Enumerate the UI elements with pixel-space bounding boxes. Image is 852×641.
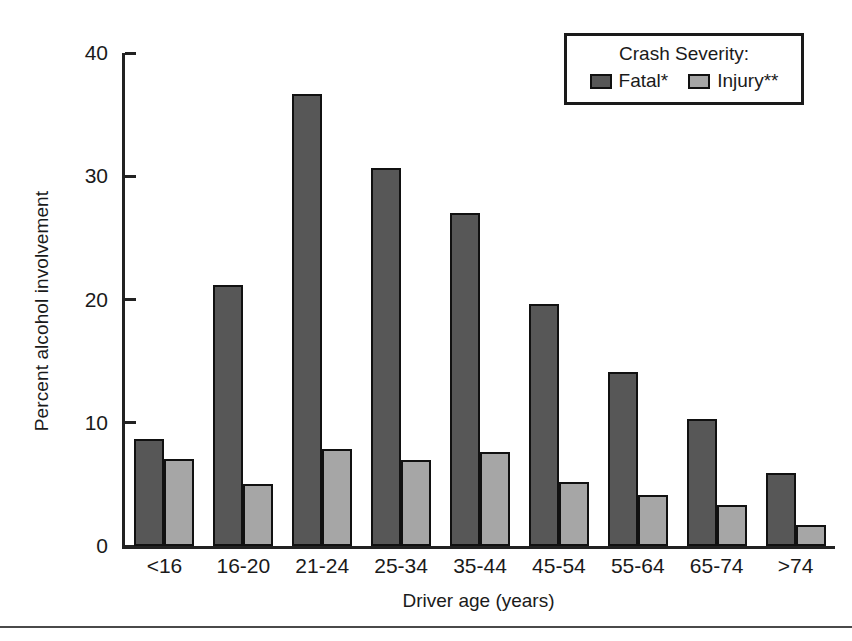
x-axis-tick-label: 25-34	[362, 554, 441, 578]
legend-label: Fatal*	[619, 70, 669, 92]
x-axis-tick-label: >74	[756, 554, 835, 578]
bar-injury[interactable]	[480, 452, 510, 546]
legend-swatch-fatal	[590, 74, 612, 89]
bar-fatal[interactable]	[292, 94, 322, 546]
x-axis-tick-label: 16-20	[204, 554, 283, 578]
x-axis-tick-label: 35-44	[441, 554, 520, 578]
bar-injury[interactable]	[559, 482, 589, 546]
y-axis-tick-label: 10	[85, 411, 108, 435]
x-axis-tick-label: <16	[125, 554, 204, 578]
x-axis-tick-label: 55-64	[598, 554, 677, 578]
bar-group	[283, 53, 362, 546]
bar-group	[598, 53, 677, 546]
bar-group	[677, 53, 756, 546]
bar-group	[125, 53, 204, 546]
bar-fatal[interactable]	[450, 213, 480, 546]
bar-group	[519, 53, 598, 546]
bar-fatal[interactable]	[371, 168, 401, 546]
bar-injury[interactable]	[717, 505, 747, 546]
legend-entries: Fatal*Injury**	[577, 70, 791, 92]
y-axis-title: Percent alcohol involvement	[31, 101, 53, 521]
legend-entry[interactable]: Fatal*	[590, 70, 669, 92]
bar-fatal[interactable]	[766, 473, 796, 546]
bar-injury[interactable]	[638, 495, 668, 546]
bar-injury[interactable]	[401, 460, 431, 546]
x-axis-tick-labels: <1616-2021-2425-3435-4445-5455-6465-74>7…	[125, 554, 835, 578]
bar-injury[interactable]	[322, 449, 352, 546]
y-axis-tick-label: 30	[85, 164, 108, 188]
legend-swatch-injury	[688, 74, 710, 89]
bar-chart-figure: Percent alcohol involvement 010203040 <1…	[0, 0, 852, 641]
y-axis-tick-label: 0	[96, 534, 108, 558]
bar-group	[756, 53, 835, 546]
bar-fatal[interactable]	[213, 285, 243, 546]
bar-fatal[interactable]	[687, 419, 717, 546]
x-axis-line	[122, 546, 835, 549]
bar-group	[441, 53, 520, 546]
bar-group	[362, 53, 441, 546]
bar-injury[interactable]	[164, 459, 194, 547]
bar-injury[interactable]	[243, 484, 273, 546]
legend-entry[interactable]: Injury**	[688, 70, 778, 92]
bar-groups	[125, 53, 835, 546]
plot-area: 010203040	[122, 53, 835, 546]
x-axis-tick-label: 21-24	[283, 554, 362, 578]
footer-divider	[0, 626, 852, 628]
y-axis-tick-label: 20	[85, 288, 108, 312]
x-axis-tick-label: 45-54	[519, 554, 598, 578]
y-axis-tick-label: 40	[85, 41, 108, 65]
bar-fatal[interactable]	[529, 304, 559, 546]
bar-injury[interactable]	[796, 525, 826, 546]
legend-title: Crash Severity:	[577, 43, 791, 65]
x-axis-title: Driver age (years)	[122, 590, 835, 612]
bar-fatal[interactable]	[134, 439, 164, 546]
bar-fatal[interactable]	[608, 372, 638, 546]
legend: Crash Severity: Fatal*Injury**	[564, 33, 804, 105]
x-axis-tick-label: 65-74	[677, 554, 756, 578]
bar-group	[204, 53, 283, 546]
legend-label: Injury**	[717, 70, 778, 92]
